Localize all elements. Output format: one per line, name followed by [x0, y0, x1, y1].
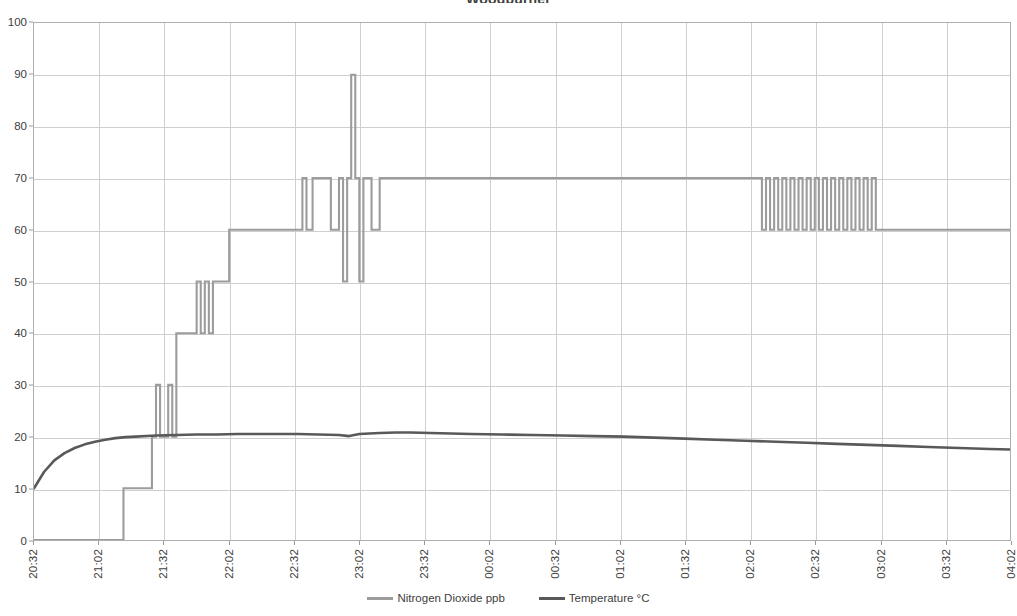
legend-item[interactable]: Temperature °C [539, 592, 650, 604]
y-axis-tick-label: 20 [14, 431, 27, 443]
x-axis-tick-mark [33, 541, 34, 545]
y-axis-tick-label: 50 [14, 276, 27, 288]
x-axis-tick-label: 03:02 [875, 549, 887, 579]
x-axis-tick-label: 02:32 [809, 549, 821, 579]
x-axis-tick-mark [229, 541, 230, 545]
y-axis-tick-label: 80 [14, 120, 27, 132]
legend-swatch-icon [539, 597, 565, 600]
x-axis-tick-label: 22:02 [223, 549, 235, 579]
y-axis-tick-label: 10 [14, 483, 27, 495]
x-axis-tick-mark [359, 541, 360, 545]
x-axis-tick-mark [946, 541, 947, 545]
legend-label: Nitrogen Dioxide ppb [397, 592, 504, 604]
chart-legend: Nitrogen Dioxide ppbTemperature °C [0, 592, 1017, 604]
x-axis-tick-mark [815, 541, 816, 545]
y-axis-tick-label: 40 [14, 327, 27, 339]
plot-frame [33, 22, 1011, 541]
y-axis-tick-label: 60 [14, 224, 27, 236]
x-axis-tick-mark [98, 541, 99, 545]
x-axis-tick-label: 22:32 [288, 549, 300, 579]
y-axis-tick-label: 70 [14, 172, 27, 184]
y-axis-tick-label: 0 [21, 535, 27, 547]
x-axis-tick-label: 23:02 [353, 549, 365, 579]
chart-plot-area: 0102030405060708090100 20:3221:0221:3222… [0, 0, 1017, 616]
y-axis-tick-label: 90 [14, 68, 27, 80]
y-axis: 0102030405060708090100 [0, 0, 33, 563]
legend-item[interactable]: Nitrogen Dioxide ppb [367, 592, 504, 604]
series-line-nitrogen-dioxide [34, 75, 1010, 540]
x-axis-tick-label: 23:32 [418, 549, 430, 579]
x-axis-tick-label: 00:02 [483, 549, 495, 579]
series-lines [34, 23, 1010, 540]
x-axis-tick-mark [163, 541, 164, 545]
x-axis-tick-label: 21:02 [92, 549, 104, 579]
x-axis-tick-mark [294, 541, 295, 545]
x-axis-tick-mark [1011, 541, 1012, 545]
x-axis-tick-mark [555, 541, 556, 545]
series-svg [34, 23, 1010, 540]
legend-swatch-icon [367, 597, 393, 600]
x-axis-tick-mark [620, 541, 621, 545]
x-axis-tick-label: 04:02 [1005, 549, 1017, 579]
series-line-temperature [34, 432, 1010, 488]
x-axis-tick-mark [685, 541, 686, 545]
x-axis-tick-label: 00:32 [549, 549, 561, 579]
x-axis-tick-label: 20:32 [27, 549, 39, 579]
x-axis-tick-mark [881, 541, 882, 545]
x-axis-tick-mark [424, 541, 425, 545]
x-axis-tick-mark [489, 541, 490, 545]
y-axis-tick-label: 100 [8, 16, 27, 28]
x-axis-tick-label: 03:32 [940, 549, 952, 579]
x-axis-tick-label: 01:32 [679, 549, 691, 579]
x-axis-tick-mark [750, 541, 751, 545]
legend-label: Temperature °C [569, 592, 650, 604]
x-axis-tick-label: 02:02 [744, 549, 756, 579]
x-axis-tick-label: 01:02 [614, 549, 626, 579]
y-axis-tick-label: 30 [14, 379, 27, 391]
x-axis-tick-label: 21:32 [157, 549, 169, 579]
